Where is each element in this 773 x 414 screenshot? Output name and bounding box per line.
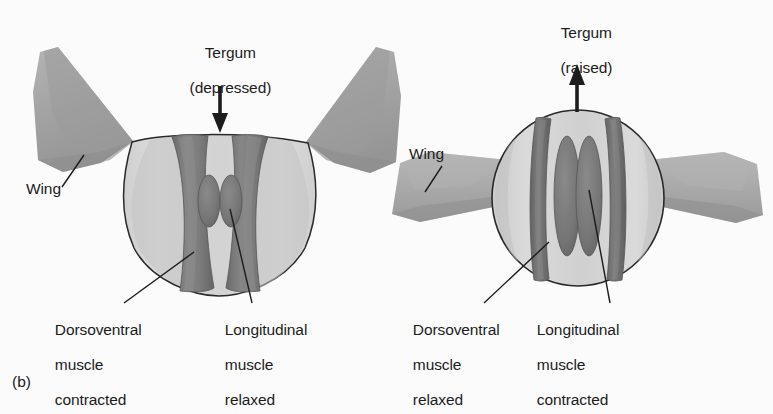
longitudinal-label-left-line1: Longitudinal	[225, 321, 307, 338]
longitudinal-label-left: Longitudinal muscle relaxed	[208, 303, 307, 414]
tergum-label-left: Tergum (depressed)	[168, 26, 276, 114]
wing-label-left: Wing	[26, 180, 61, 198]
figure-canvas: Tergum (depressed) Wing Dorsoventral mus…	[0, 0, 773, 414]
longitudinal-label-left-line3: relaxed	[225, 391, 275, 408]
tergum-label-right: Tergum (raised)	[528, 6, 628, 94]
wing-label-right: Wing	[409, 145, 444, 163]
dorsoventral-label-right: Dorsoventral muscle relaxed	[396, 303, 500, 414]
tergum-label-right-line1: Tergum	[561, 24, 612, 41]
longitudinal-label-right-line1: Longitudinal	[537, 321, 619, 338]
dorsoventral-label-left-line1: Dorsoventral	[55, 321, 142, 338]
longitudinal-label-right-line3: contracted	[537, 391, 608, 408]
panel-right	[392, 64, 763, 303]
dorsoventral-label-left: Dorsoventral muscle contracted	[38, 303, 142, 414]
thorax-left	[124, 135, 316, 296]
dorsoventral-label-right-line3: relaxed	[413, 391, 463, 408]
longitudinal-label-left-line2: muscle	[225, 356, 274, 373]
longitudinal-muscle-left-relaxed	[198, 175, 220, 227]
panel-tag: (b)	[12, 373, 31, 391]
wing-left-lower	[392, 152, 508, 222]
tergum-label-left-line2: (depressed)	[190, 79, 272, 96]
wing-right-upper	[306, 47, 401, 173]
dorsoventral-label-left-line3: contracted	[55, 391, 126, 408]
longitudinal-muscle-right-relaxed	[220, 175, 242, 227]
longitudinal-label-right: Longitudinal muscle contracted	[520, 303, 619, 414]
dorsoventral-label-left-line2: muscle	[55, 356, 104, 373]
wing-right-lower	[648, 152, 763, 223]
wing-left-upper	[33, 47, 133, 172]
tergum-label-left-line1: Tergum	[205, 44, 256, 61]
longitudinal-label-right-line2: muscle	[537, 356, 586, 373]
dorsoventral-label-right-line1: Dorsoventral	[413, 321, 500, 338]
dorsoventral-label-right-line2: muscle	[413, 356, 462, 373]
tergum-label-right-line2: (raised)	[561, 59, 613, 76]
